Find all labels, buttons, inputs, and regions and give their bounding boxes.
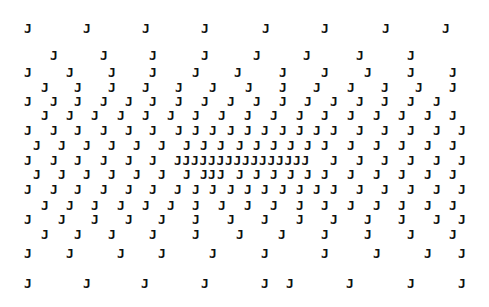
glyph-j: J bbox=[24, 95, 32, 108]
glyph-j: J bbox=[287, 168, 295, 181]
glyph-j: J bbox=[381, 81, 389, 94]
glyph-j: J bbox=[382, 22, 390, 35]
glyph-j: J bbox=[407, 228, 415, 241]
glyph-j: J bbox=[262, 22, 270, 35]
glyph-j: J bbox=[108, 139, 116, 152]
glyph-j: J bbox=[304, 95, 312, 108]
glyph-j: J bbox=[83, 168, 91, 181]
glyph-j: J bbox=[158, 168, 166, 181]
glyph-j: J bbox=[449, 109, 457, 122]
glyph-j: J bbox=[66, 199, 74, 212]
glyph-j: J bbox=[321, 168, 329, 181]
glyph-j: J bbox=[225, 154, 233, 167]
glyph-j: J bbox=[286, 277, 294, 290]
glyph-j: J bbox=[407, 124, 415, 137]
glyph-j: J bbox=[398, 109, 406, 122]
glyph-j: J bbox=[449, 66, 457, 79]
glyph-j: J bbox=[449, 81, 457, 94]
glyph-j: J bbox=[24, 124, 32, 137]
glyph-j: J bbox=[270, 139, 278, 152]
glyph-j: J bbox=[442, 22, 450, 35]
glyph-j: J bbox=[66, 66, 74, 79]
glyph-j: J bbox=[433, 183, 441, 196]
glyph-j: J bbox=[356, 124, 364, 137]
glyph-j: J bbox=[356, 183, 364, 196]
glyph-j: J bbox=[167, 199, 175, 212]
glyph-j: J bbox=[381, 183, 389, 196]
glyph-j: J bbox=[381, 154, 389, 167]
glyph-j: J bbox=[268, 154, 276, 167]
glyph-j: J bbox=[356, 95, 364, 108]
glyph-j: J bbox=[244, 124, 252, 137]
glyph-j: J bbox=[66, 109, 74, 122]
glyph-j: J bbox=[261, 213, 269, 226]
glyph-j: J bbox=[125, 183, 133, 196]
glyph-j: J bbox=[381, 95, 389, 108]
glyph-j: J bbox=[407, 66, 415, 79]
glyph-j: J bbox=[133, 139, 141, 152]
glyph-j: J bbox=[141, 277, 149, 290]
glyph-j: J bbox=[125, 124, 133, 137]
glyph-j: J bbox=[347, 109, 355, 122]
glyph-j: J bbox=[433, 154, 441, 167]
glyph-j: J bbox=[74, 81, 82, 94]
glyph-j: J bbox=[33, 139, 41, 152]
glyph-j: J bbox=[244, 199, 252, 212]
glyph-j: J bbox=[175, 95, 183, 108]
glyph-j: J bbox=[279, 124, 287, 137]
glyph-j: J bbox=[91, 199, 99, 212]
glyph-j: J bbox=[433, 95, 441, 108]
glyph-j: J bbox=[24, 22, 32, 35]
glyph-j: J bbox=[278, 228, 286, 241]
glyph-j: J bbox=[373, 247, 381, 260]
glyph-j: J bbox=[192, 66, 200, 79]
glyph-j: J bbox=[253, 168, 261, 181]
glyph-j: J bbox=[270, 109, 278, 122]
glyph-j: J bbox=[330, 154, 338, 167]
glyph-j: J bbox=[356, 154, 364, 167]
glyph-j: J bbox=[108, 66, 116, 79]
glyph-j: J bbox=[149, 124, 157, 137]
glyph-j: J bbox=[253, 139, 261, 152]
glyph-j: J bbox=[108, 168, 116, 181]
glyph-j: J bbox=[41, 81, 49, 94]
glyph-j: J bbox=[149, 228, 157, 241]
glyph-j: J bbox=[192, 213, 200, 226]
glyph-j: J bbox=[330, 183, 338, 196]
glyph-j: J bbox=[251, 154, 259, 167]
glyph-j: J bbox=[321, 109, 329, 122]
glyph-j: J bbox=[296, 109, 304, 122]
glyph-j: J bbox=[424, 199, 432, 212]
glyph-j: J bbox=[58, 168, 66, 181]
glyph-j: J bbox=[407, 183, 415, 196]
glyph-j: J bbox=[192, 183, 200, 196]
glyph-j: J bbox=[74, 124, 82, 137]
glyph-j: J bbox=[398, 139, 406, 152]
glyph-j: J bbox=[24, 213, 32, 226]
glyph-j: J bbox=[149, 49, 157, 62]
glyph-j: J bbox=[321, 199, 329, 212]
glyph-j: J bbox=[149, 95, 157, 108]
glyph-j: J bbox=[236, 139, 244, 152]
glyph-j: J bbox=[125, 213, 133, 226]
glyph-j: J bbox=[183, 154, 191, 167]
glyph-j: J bbox=[236, 168, 244, 181]
glyph-j: J bbox=[458, 247, 466, 260]
glyph-j: J bbox=[50, 183, 58, 196]
glyph-j: J bbox=[74, 228, 82, 241]
glyph-j: J bbox=[91, 213, 99, 226]
glyph-j: J bbox=[303, 49, 311, 62]
glyph-j: J bbox=[24, 154, 32, 167]
glyph-j: J bbox=[209, 247, 217, 260]
glyph-j: J bbox=[100, 124, 108, 137]
glyph-j: J bbox=[296, 199, 304, 212]
glyph-j: J bbox=[83, 139, 91, 152]
glyph-j: J bbox=[66, 247, 74, 260]
glyph-j: J bbox=[458, 183, 466, 196]
glyph-j: J bbox=[24, 183, 32, 196]
glyph-j: J bbox=[259, 154, 267, 167]
glyph-j: J bbox=[407, 277, 415, 290]
glyph-j: J bbox=[175, 81, 183, 94]
glyph-j: J bbox=[191, 154, 199, 167]
glyph-j: J bbox=[424, 168, 432, 181]
